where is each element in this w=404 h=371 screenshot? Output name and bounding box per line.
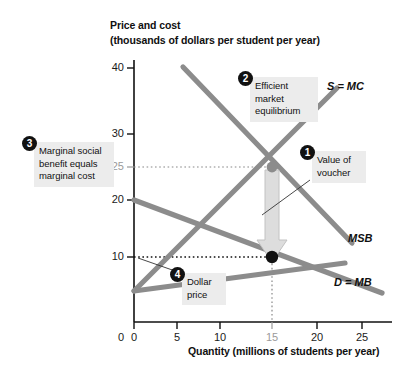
y-tick-label-20: 20: [104, 193, 124, 205]
supply-curve-label: S = MC: [327, 80, 364, 92]
y-tick-label-0: 0: [104, 331, 124, 343]
callout-badge-1: 1: [300, 145, 315, 160]
callout-dollar-price: Dollar price: [182, 273, 226, 305]
x-tick-label-10: 10: [212, 331, 228, 343]
callout-badge-4: 4: [170, 267, 185, 282]
y-tick-label-10: 10: [104, 250, 124, 262]
x-tick-label-25: 25: [354, 331, 370, 343]
callout-efficient-market-equilibrium: Efficient market equilibrium: [250, 77, 318, 122]
y-tick-label-30: 30: [104, 127, 124, 139]
callout-badge-3: 3: [22, 136, 37, 151]
demand-curve-label: D = MB: [334, 276, 372, 288]
x-tick-label-5: 5: [170, 331, 184, 343]
x-tick-label-20: 20: [309, 331, 325, 343]
x-tick-label-15: 15: [264, 331, 280, 343]
msb-curve-label: MSB: [348, 232, 372, 244]
x-axis-title: Quantity (millions of students per year): [188, 345, 379, 357]
dollar-price-marker: [266, 251, 278, 263]
x-tick-label-0: 0: [127, 331, 141, 343]
voucher-market-figure: Price and cost (thousands of dollars per…: [0, 0, 404, 371]
callout-marginal-social-benefit: Marginal social benefit equals marginal …: [34, 142, 114, 187]
y-tick-label-40: 40: [104, 61, 124, 73]
callout-value-of-voucher: Value of voucher: [312, 151, 366, 183]
efficient-equilibrium-marker: [267, 162, 278, 173]
callout-badge-2: 2: [238, 71, 253, 86]
